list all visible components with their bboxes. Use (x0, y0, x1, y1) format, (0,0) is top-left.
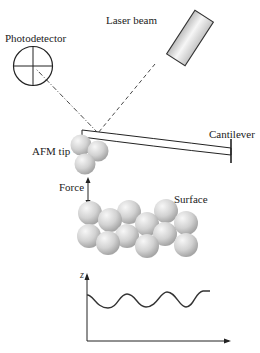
surface-atom (135, 234, 159, 258)
z-axis-arrow-icon (85, 273, 90, 280)
photodetector-label: Photodetector (5, 32, 66, 44)
cantilever-label: Cantilever (209, 128, 255, 140)
surface-atom (96, 231, 120, 255)
z-axis-label: z (79, 269, 84, 280)
laser-source (167, 10, 214, 66)
height-profile-plot (85, 273, 232, 344)
surface-atoms (77, 199, 198, 258)
afm-diagram: Photodetector Laser beam Cantilever AFM … (0, 0, 260, 353)
tip-sphere (75, 154, 96, 175)
surface-label: Surface (174, 193, 208, 205)
afm-tip (71, 135, 109, 175)
laser-beam-label: Laser beam (106, 14, 157, 26)
profile-curve (87, 291, 210, 308)
surface-atom (174, 233, 198, 257)
surface-atom (174, 211, 198, 235)
reflected-beam-line (36, 69, 98, 133)
laser-body-icon (167, 10, 214, 66)
afm-tip-label: AFM tip (32, 145, 71, 157)
force-label: Force (59, 181, 84, 193)
laser-beam-line (98, 64, 155, 133)
x-axis-arrow-icon (224, 339, 231, 344)
arrow-up-icon (86, 177, 91, 183)
